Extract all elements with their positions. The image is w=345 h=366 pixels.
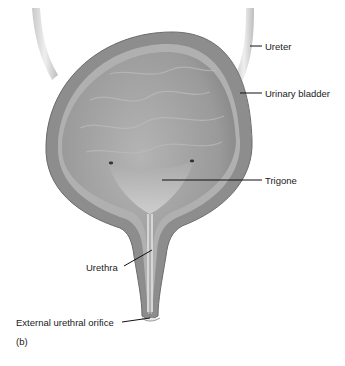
- urinary-bladder-diagram: Ureter Urinary bladder Trigone Urethra E…: [0, 0, 345, 366]
- label-trigone: Trigone: [265, 175, 297, 186]
- left-ureter: [32, 8, 58, 80]
- panel-label: (b): [16, 336, 28, 347]
- label-urethra: Urethra: [86, 262, 118, 273]
- label-ureter: Ureter: [265, 41, 291, 52]
- label-urinary-bladder: Urinary bladder: [265, 88, 330, 99]
- label-external-urethral-orifice: External urethral orifice: [16, 317, 114, 328]
